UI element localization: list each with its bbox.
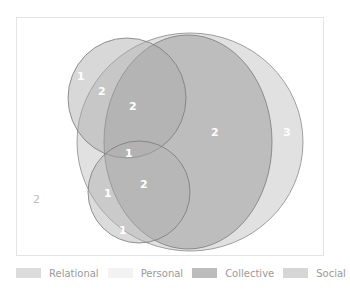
label-relational-collective: 2	[140, 178, 148, 191]
legend-label: Collective	[225, 268, 274, 279]
label-relational-social: 1	[104, 187, 112, 200]
label-outside: 2	[33, 193, 40, 206]
label-collective-social: 2	[211, 126, 219, 139]
legend-label: Relational	[49, 268, 99, 279]
label-relational-only: 1	[119, 224, 127, 237]
legend-label: Social	[316, 268, 346, 279]
label-personal-collective: 2	[129, 100, 137, 113]
relational-swatch	[16, 268, 41, 278]
collective-swatch	[192, 268, 217, 278]
legend: Relational Personal Collective Social	[16, 266, 350, 280]
legend-item-relational[interactable]: Relational	[16, 268, 99, 279]
legend-item-collective[interactable]: Collective	[192, 268, 274, 279]
label-social-only: 3	[283, 126, 291, 139]
label-personal-only: 1	[77, 70, 85, 83]
social-swatch	[283, 268, 308, 278]
legend-label: Personal	[141, 268, 184, 279]
label-personal-social: 2	[98, 85, 106, 98]
legend-item-social[interactable]: Social	[283, 268, 346, 279]
personal-set[interactable]	[68, 38, 186, 158]
legend-item-personal[interactable]: Personal	[108, 268, 184, 279]
label-all-four: 1	[125, 147, 133, 160]
personal-swatch	[108, 268, 133, 278]
